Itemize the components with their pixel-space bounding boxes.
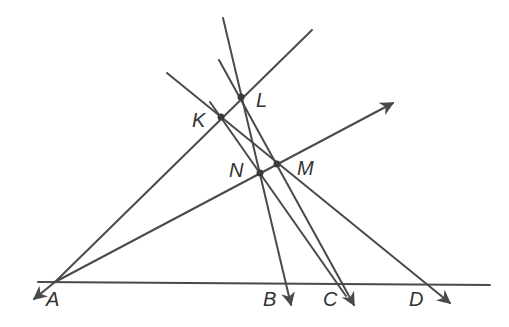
- point-M: [274, 161, 281, 168]
- label-A: A: [46, 289, 59, 309]
- ray-K-N-C: [210, 102, 346, 296]
- ray-A-K-L: [55, 30, 312, 282]
- point-N: [257, 170, 264, 177]
- label-K: K: [192, 110, 205, 130]
- label-L: L: [256, 90, 267, 110]
- label-C: C: [323, 289, 337, 309]
- geometry-diagram: [0, 0, 509, 327]
- label-B: B: [263, 289, 276, 309]
- label-D: D: [409, 289, 423, 309]
- baseline-AD: [38, 282, 490, 285]
- label-M: M: [297, 158, 314, 178]
- point-L: [238, 94, 245, 101]
- label-N: N: [229, 160, 243, 180]
- point-K: [218, 114, 225, 121]
- ray-K-M-D: [167, 73, 450, 303]
- ray-A-N-M: [55, 103, 393, 282]
